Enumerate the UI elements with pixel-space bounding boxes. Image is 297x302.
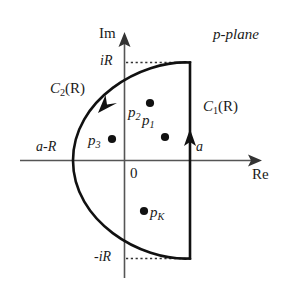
pole-pK-dot	[140, 207, 148, 215]
plane-label: p-plane	[213, 27, 259, 42]
tick-label-minus-iR: -iR	[94, 250, 111, 264]
pole-p1-index: 1	[150, 119, 155, 130]
pole-pK-index: K	[158, 211, 165, 222]
contour-label-c2: C2(R)	[50, 81, 85, 98]
figure-canvas: p-plane Im Re 0 iR -iR a-R a C1(R) C2(R)…	[0, 0, 297, 302]
pole-p2-index: 2	[136, 111, 141, 122]
contour-label-c1-arg: (R)	[218, 98, 238, 114]
tick-label-a-minus-R: a-R	[36, 140, 56, 154]
pole-p2-base: p	[128, 104, 136, 120]
contour-label-c1-base: C	[203, 98, 213, 114]
pole-p3-base: p	[88, 132, 96, 148]
pole-p2-dot	[146, 99, 154, 107]
pole-p3-dot	[108, 135, 116, 143]
imaginary-axis-label: Im	[99, 26, 116, 41]
pole-p1-base: p	[142, 112, 150, 128]
pole-p3-label: p3	[88, 133, 101, 150]
contour-label-c2-base: C	[50, 80, 60, 96]
plane-label-text: p-plane	[213, 26, 259, 42]
pole-p1-dot	[161, 133, 169, 141]
tick-label-iR: iR	[100, 54, 112, 68]
pole-p3-index: 3	[96, 139, 101, 150]
pole-p1-label: p1	[142, 113, 155, 130]
pole-p2-label: p2	[128, 105, 141, 122]
contour-label-c1: C1(R)	[203, 99, 238, 116]
contour-label-c2-arg: (R)	[65, 80, 85, 96]
real-axis-label: Re	[252, 167, 269, 182]
axes-group	[20, 32, 262, 278]
tick-label-a: a	[196, 140, 203, 154]
pole-pK-base: p	[150, 204, 158, 220]
pole-pK-label: pK	[150, 205, 164, 222]
origin-label: 0	[130, 166, 138, 181]
